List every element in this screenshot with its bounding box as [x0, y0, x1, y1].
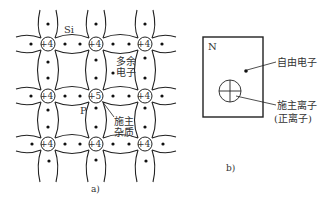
semiconductor-diagram [0, 0, 320, 207]
donor-ion-leader [236, 96, 276, 105]
atom-charge: +4 [40, 139, 53, 150]
atom-charge: +4 [88, 39, 101, 50]
phosphorus-label: P [80, 105, 87, 116]
panel-b-caption: b) [226, 163, 235, 173]
atom-charge: +4 [88, 139, 101, 150]
free-electron-leader [247, 62, 276, 70]
donor-ion-label: 施主离子 [277, 100, 317, 111]
donor-ion-symbol [219, 80, 241, 102]
donor-impurity-label-line2: 杂质 [114, 127, 134, 138]
atom-charge: +4 [40, 39, 53, 50]
atom-charge: +4 [137, 91, 150, 102]
silicon-label: Si [64, 24, 74, 35]
excess-electron-label-line1: 多余 [116, 56, 136, 67]
panel-a-caption: a) [91, 184, 100, 194]
phosphorus-charge: +5 [88, 91, 101, 102]
n-region-label: N [208, 41, 217, 52]
atom-charge: +4 [137, 139, 150, 150]
atom-charge: +4 [40, 91, 53, 102]
free-electron-label: 自由电子 [277, 57, 317, 68]
donor-ion-sublabel: (正离子) [274, 113, 312, 124]
donor-impurity-label-line1: 施主 [114, 116, 134, 127]
excess-electron-label-line2: 电子 [116, 67, 136, 78]
atom-charge: +4 [137, 39, 150, 50]
